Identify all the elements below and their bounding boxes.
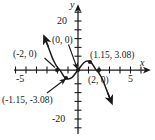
x-axis-label: x [140, 58, 144, 68]
point-label-origin: (0, 0) [52, 36, 73, 46]
point-label-root-2: (2, 0) [88, 76, 109, 86]
point-origin [76, 68, 80, 72]
leader-local-min [47, 81, 64, 94]
point-root-2 [97, 68, 101, 72]
y-tick-label-20: 20 [57, 16, 67, 26]
point-label-root-neg2: (-2, 0) [13, 50, 37, 60]
point-label-local-min: (-1.15, -3.08) [2, 96, 53, 106]
x-tick-label-5: 5 [128, 74, 133, 84]
point-label-local-max: (1.15, 3.08) [90, 51, 134, 61]
graph-canvas [0, 0, 155, 140]
point-local-max [88, 60, 92, 64]
point-root-neg2 [55, 68, 59, 72]
point-local-min [64, 76, 68, 80]
curve-arrow-upper-left [45, 39, 48, 47]
graph-figure: -5 5 20 -20 x y (0, 0) (-2, 0) (2, 0) (1… [0, 0, 155, 140]
curve-arrow-lower-right [108, 93, 111, 101]
y-tick-label-neg20: -20 [52, 114, 65, 124]
y-axis-label: y [70, 0, 74, 10]
x-tick-label-neg5: -5 [16, 74, 24, 84]
